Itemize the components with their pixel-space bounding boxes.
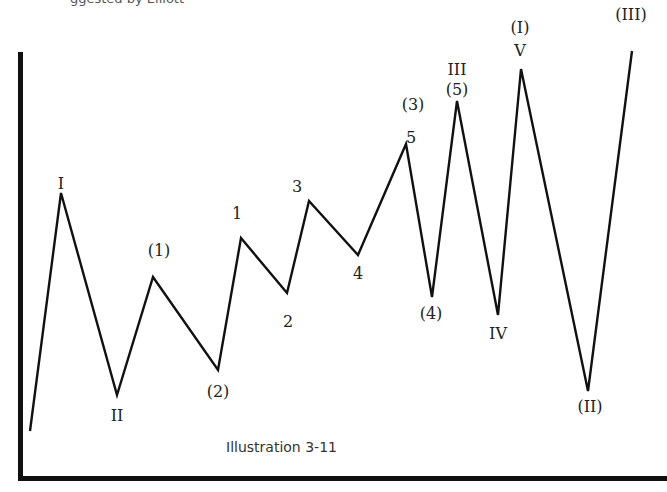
wave-label: (3) bbox=[402, 97, 425, 113]
wave-line bbox=[0, 0, 667, 492]
wave-label: (II) bbox=[577, 399, 602, 415]
wave-label: 5 bbox=[406, 130, 416, 146]
wave-label: 4 bbox=[353, 266, 363, 282]
wave-label: (5) bbox=[446, 82, 469, 98]
wave-label: 2 bbox=[283, 314, 293, 330]
wave-label: 3 bbox=[292, 179, 302, 195]
wave-label: V bbox=[514, 43, 526, 59]
illustration-caption: Illustration 3-11 bbox=[226, 440, 337, 454]
wave-label: (I) bbox=[511, 20, 530, 36]
wave-label: 1 bbox=[232, 206, 242, 222]
wave-label: (2) bbox=[207, 384, 230, 400]
wave-label: III bbox=[448, 62, 467, 78]
wave-label: (III) bbox=[615, 7, 646, 23]
wave-label: I bbox=[58, 176, 64, 192]
wave-label: (4) bbox=[420, 306, 443, 322]
wave-label: IV bbox=[489, 326, 507, 342]
elliott-wave-diagram: ggested by Elliott III(1)(2)12345(3)(4)I… bbox=[0, 0, 667, 492]
wave-label: (1) bbox=[148, 243, 171, 259]
wave-label: II bbox=[111, 408, 124, 424]
